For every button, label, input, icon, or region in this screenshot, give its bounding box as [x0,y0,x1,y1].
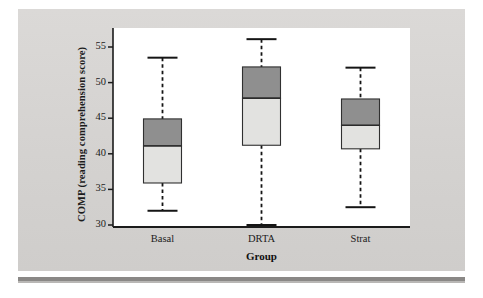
figure-root: COMP (reading comprehension score) 30 35… [0,0,483,298]
page-bottom-rule-soft [18,281,465,283]
y-tick-label-5: 55 [80,40,106,51]
box-lower-strat [342,125,380,148]
y-tick-label-0: 30 [80,218,106,229]
x-tick-label-basal: Basal [118,233,208,244]
box-upper-drta [243,67,281,98]
x-axis-title: Group [113,250,410,262]
y-tick-label-3: 45 [80,111,106,122]
box-lower-basal [144,146,182,183]
box-upper-basal [144,119,182,146]
x-tick-label-drta: DRTA [217,233,307,244]
x-tick-label-strat: Strat [316,233,406,244]
y-tick-label-1: 35 [80,182,106,193]
y-tick-label-2: 40 [80,147,106,158]
y-tick-label-4: 50 [80,76,106,87]
box-lower-drta [243,98,281,145]
box-upper-strat [342,99,380,125]
